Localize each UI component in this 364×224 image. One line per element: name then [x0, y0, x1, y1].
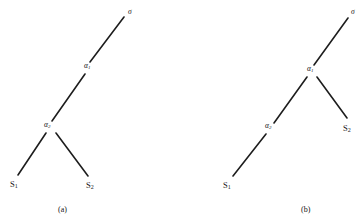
edge-root-alpha1-b [314, 18, 348, 65]
edge-root-alpha1-a [90, 17, 124, 62]
edge-alpha2-s2-a [56, 133, 88, 176]
figure-root: σ α1 α2 S1 S2 σ α1 α2 S1 S2 (a) (b) [0, 0, 364, 224]
panel-b-node-leaf-s1: S1 [223, 181, 231, 190]
panel-a-edges [0, 0, 364, 224]
edge-alpha1-s2-b [317, 77, 347, 118]
panel-a-node-root: σ [128, 8, 132, 16]
panel-b-node-leaf-s2: S2 [343, 124, 351, 133]
panel-b-node-alpha-1: α1 [307, 65, 314, 73]
panel-b-node-alpha-2: α2 [265, 122, 272, 130]
panel-a-node-alpha-2: α2 [44, 121, 51, 129]
edge-alpha2-s1-a [18, 133, 46, 175]
panel-a-edge-group [18, 17, 124, 176]
edge-alpha1-alpha2-b [274, 77, 307, 123]
edge-alpha1-alpha2-a [52, 74, 85, 121]
panel-a-node-alpha-1: α1 [84, 62, 91, 70]
panel-a-node-leaf-s2: S2 [86, 181, 94, 190]
panel-b-edge-group [233, 18, 348, 176]
panel-a-caption: (a) [58, 206, 67, 214]
panel-a-node-leaf-s1: S1 [10, 180, 18, 189]
panel-b-caption: (b) [301, 206, 310, 214]
panel-b-node-root: σ [351, 8, 355, 16]
edge-alpha2-s1-b [233, 134, 266, 176]
